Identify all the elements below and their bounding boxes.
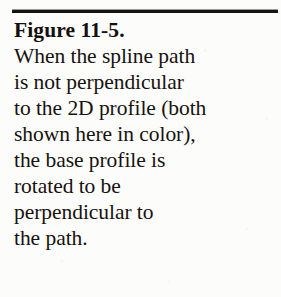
- caption-text-block: Figure 11-5. When the spline path is not…: [14, 17, 276, 251]
- figure-caption-block: Figure 11-5. When the spline path is not…: [0, 0, 281, 297]
- caption-line-8: the path.: [14, 225, 276, 251]
- caption-line-3: to the 2D profile (both: [14, 95, 276, 121]
- caption-line-1: When the spline path: [14, 43, 276, 69]
- caption-line-4: shown here in color),: [14, 121, 276, 147]
- caption-line-6: rotated to be: [14, 173, 276, 199]
- caption-line-2: is not perpendicular: [14, 69, 276, 95]
- figure-number-heading: Figure 11-5.: [14, 17, 276, 43]
- caption-line-5: the base profile is: [14, 147, 276, 173]
- caption-top-rule: [12, 10, 278, 13]
- caption-line-7: perpendicular to: [14, 199, 276, 225]
